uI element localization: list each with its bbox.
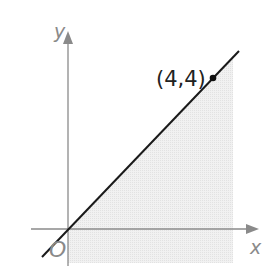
y-axis-label: y: [53, 20, 66, 42]
shaded-region: [68, 56, 233, 263]
x-axis-arrow-icon: [246, 224, 259, 234]
point-4-4: [210, 75, 217, 82]
origin-label: O: [49, 237, 66, 262]
point-label: (4,4): [156, 67, 206, 91]
x-axis-label: x: [249, 236, 262, 258]
coordinate-plane: (4,4) y x O: [0, 0, 277, 270]
